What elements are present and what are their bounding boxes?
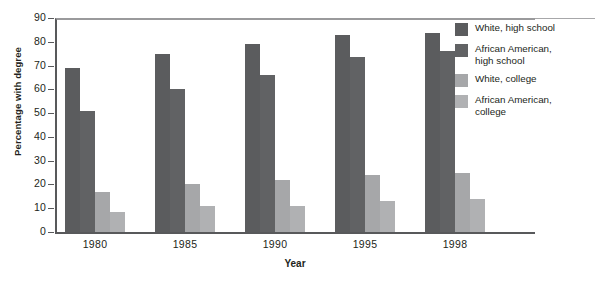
y-tick-label: 10 [0,201,46,213]
x-tick-label: 1995 [320,238,410,250]
x-tick-label: 1985 [140,238,230,250]
bar-group [65,18,125,232]
bar [455,173,470,232]
bar-group [155,18,215,232]
x-axis-title: Year [55,258,535,269]
y-tick-mark [48,42,54,43]
legend-item: White, high school [455,22,587,36]
y-tick-mark [48,18,54,19]
legend-label: White, college [475,73,537,85]
y-tick-mark [48,232,54,233]
legend-item: African American, college [455,94,587,117]
y-tick-label: 70 [0,59,46,71]
y-tick-mark [48,66,54,67]
y-tick-mark [48,184,54,185]
y-tick-label: 80 [0,35,46,47]
x-tick-label: 1980 [50,238,140,250]
bar [335,35,350,232]
bar [245,44,260,232]
legend-item: White, college [455,73,587,87]
y-tick-mark [48,113,54,114]
bar [290,206,305,232]
bar [170,89,185,232]
legend-swatch-icon [455,95,468,108]
bar [80,111,95,232]
legend-swatch-icon [455,44,468,57]
bar-group [245,18,305,232]
y-tick-mark [48,89,54,90]
bar [95,192,110,232]
bar [185,184,200,232]
bar [65,68,80,232]
y-tick-label: 30 [0,154,46,166]
bar [275,180,290,232]
legend-swatch-icon [455,74,468,87]
y-tick-mark [48,137,54,138]
legend-label: African American, high school [475,43,552,66]
x-tick-label: 1990 [230,238,320,250]
y-tick-label: 40 [0,130,46,142]
y-tick-label: 90 [0,11,46,23]
bar [110,212,125,232]
legend-label: African American, college [475,94,552,117]
y-tick-mark [48,208,54,209]
x-tick-label: 1998 [410,238,500,250]
bar [365,175,380,232]
bar [155,54,170,232]
y-tick-label: 50 [0,106,46,118]
legend-swatch-icon [455,23,468,36]
y-tick-label: 60 [0,82,46,94]
bar [260,75,275,232]
chart-legend: White, high schoolAfrican American, high… [455,22,587,124]
bar [440,51,455,232]
y-tick-label: 20 [0,177,46,189]
bar [425,33,440,232]
legend-item: African American, high school [455,43,587,66]
bar [350,57,365,232]
bar [200,206,215,232]
y-tick-mark [48,161,54,162]
y-tick-label: 0 [0,225,46,237]
legend-label: White, high school [475,22,555,34]
bar [380,201,395,232]
bar-group [335,18,395,232]
bar [470,199,485,232]
x-axis-line [55,232,535,234]
